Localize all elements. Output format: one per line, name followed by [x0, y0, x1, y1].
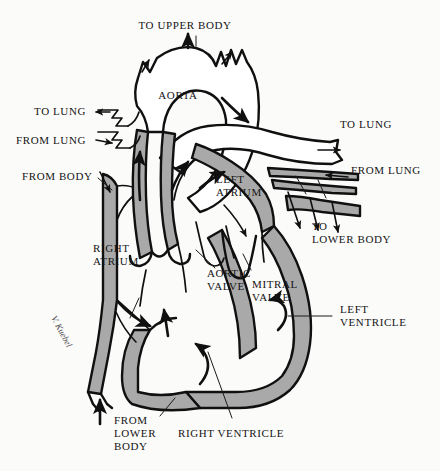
left-ventricle-chamber: [186, 226, 311, 408]
label-from-lower-body: FROM LOWER BODY: [114, 414, 170, 453]
label-from-lung-left: FROM LUNG: [2, 134, 86, 147]
flow-left-ventricle-swirl-arrow: [270, 300, 286, 330]
label-from-body: FROM BODY: [22, 170, 106, 183]
superior-vena-cava-vessel: [88, 174, 117, 394]
label-right-atrium: RIGHT ATRIUM: [93, 242, 165, 268]
right-ventricle-chamber: [122, 318, 200, 410]
label-left-atrium: LEFT ATRIUM: [216, 173, 288, 199]
label-right-ventricle: RIGHT VENTRICLE: [178, 427, 308, 440]
label-to-lower-body: TO LOWER BODY: [312, 220, 422, 246]
label-mitral-valve: MITRAL VALVE: [252, 278, 314, 304]
label-left-ventricle: LEFT VENTRICLE: [340, 303, 426, 329]
label-aorta: AORTA: [150, 89, 206, 102]
leader-aortic-valve: [196, 250, 215, 268]
flow-right-ventricle-swirl-arrow: [164, 310, 208, 384]
left-lung-vessel-stubs: [96, 110, 140, 148]
label-to-lung-left: TO LUNG: [14, 105, 86, 118]
label-from-lung-right: FROM LUNG: [351, 164, 435, 177]
label-to-upper-body: TO UPPER BODY: [127, 19, 243, 32]
descending-aorta-vessel: [286, 196, 360, 216]
heart-diagram-page: .ink { fill:none; stroke:#101010; stroke…: [0, 0, 440, 471]
label-to-lung-right: TO LUNG: [340, 118, 412, 131]
flow-left-ventricle-to-aorta-arrow: [139, 152, 140, 200]
